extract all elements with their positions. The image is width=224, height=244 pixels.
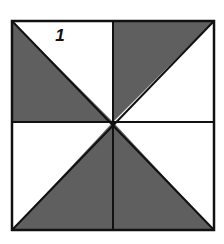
- pinwheel-diagram: 1: [0, 0, 224, 244]
- region-label: 1: [55, 26, 64, 45]
